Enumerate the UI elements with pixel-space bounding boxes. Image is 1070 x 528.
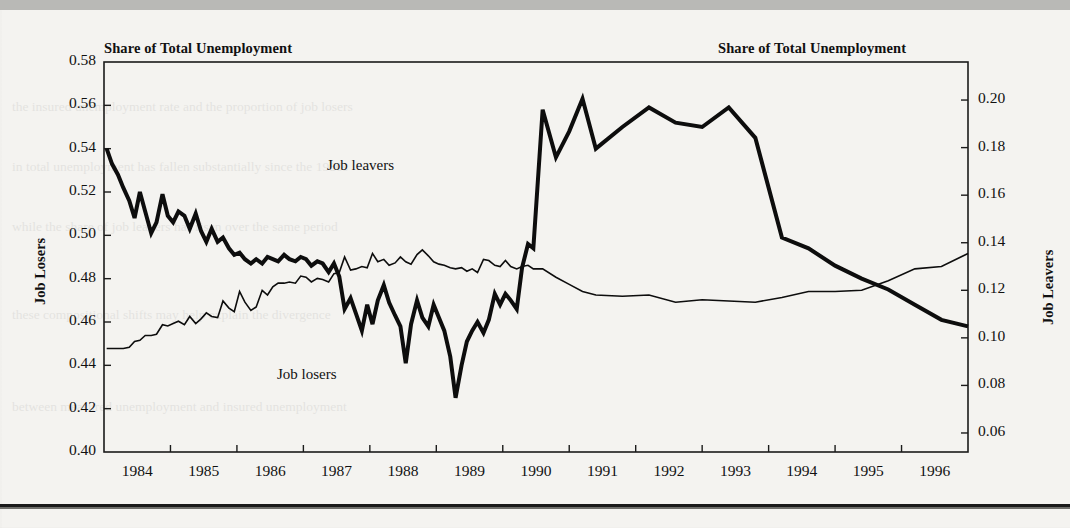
axis-ticks xyxy=(104,100,968,452)
data-series xyxy=(107,99,968,398)
y-tick-label-right: 0.10 xyxy=(978,327,1034,345)
y-tick-label-right: 0.14 xyxy=(978,232,1034,250)
x-tick-label: 1988 xyxy=(371,462,435,480)
y-tick-label-right: 0.20 xyxy=(978,89,1034,107)
y-tick-label-right: 0.18 xyxy=(978,137,1034,155)
x-tick-label: 1991 xyxy=(570,462,634,480)
y-tick-label-right: 0.06 xyxy=(978,422,1034,440)
x-tick-label: 1986 xyxy=(238,462,302,480)
x-tick-label: 1992 xyxy=(637,462,701,480)
series-line-job-losers xyxy=(107,99,968,398)
x-tick-label: 1989 xyxy=(438,462,502,480)
x-tick-label: 1985 xyxy=(172,462,236,480)
x-tick-label: 1994 xyxy=(770,462,834,480)
y-tick-label-left: 0.50 xyxy=(40,224,96,242)
y-tick-label-left: 0.40 xyxy=(40,441,96,459)
plot-canvas xyxy=(0,0,1070,528)
series-line-job-leavers xyxy=(107,250,968,349)
y-tick-label-left: 0.52 xyxy=(40,181,96,199)
x-tick-label: 1996 xyxy=(903,462,967,480)
y-tick-label-left: 0.54 xyxy=(40,138,96,156)
y-tick-label-left: 0.58 xyxy=(40,51,96,69)
x-tick-label: 1993 xyxy=(703,462,767,480)
x-tick-label: 1984 xyxy=(105,462,169,480)
y-tick-label-left: 0.56 xyxy=(40,94,96,112)
x-tick-label: 1995 xyxy=(836,462,900,480)
y-tick-label-left: 0.46 xyxy=(40,311,96,329)
x-tick-label: 1990 xyxy=(504,462,568,480)
y-tick-label-left: 0.44 xyxy=(40,354,96,372)
y-tick-label-left: 0.48 xyxy=(40,268,96,286)
y-tick-label-right: 0.08 xyxy=(978,374,1034,392)
unemployment-share-figure: Share of Total Unemployment Share of Tot… xyxy=(0,0,1070,528)
y-tick-label-left: 0.42 xyxy=(40,398,96,416)
x-tick-label: 1987 xyxy=(305,462,369,480)
y-tick-label-right: 0.16 xyxy=(978,184,1034,202)
y-tick-label-right: 0.12 xyxy=(978,279,1034,297)
